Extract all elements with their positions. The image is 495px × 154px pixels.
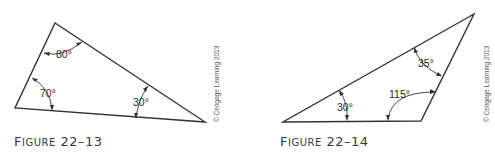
copyright-notice: © Cengage Learning 2013 [483,45,491,122]
triangle-22-14 [283,14,474,122]
arrowhead-icon [345,115,349,121]
figure-22-13: 80° 70° 30° FIGURE 22–13 © Cengage Learn… [14,23,221,149]
copyright-notice: © Cengage Learning 2013 [213,45,221,122]
figure-22-14: 35° 30° 115° FIGURE 22–14 © Cengage Lear… [280,14,491,149]
figure-caption: FIGURE 22–13 [14,134,103,149]
angle-label-70: 70° [40,87,56,99]
arrowhead-icon [134,113,138,119]
figure-caption: FIGURE 22–14 [280,134,369,149]
angle-label-35: 35° [418,57,434,69]
triangle-22-13 [15,23,205,122]
arrowhead-icon [386,115,390,121]
angle-label-30: 30° [133,96,149,108]
arrowhead-icon [414,47,418,53]
angle-label-30b: 30° [337,101,353,113]
figures-canvas: 80° 70° 30° FIGURE 22–13 © Cengage Learn… [0,0,495,154]
arrowhead-icon [339,90,344,96]
angle-label-80: 80° [56,48,72,60]
arrowhead-icon [143,86,148,92]
angle-label-115: 115° [389,88,410,100]
arrowhead-icon [44,52,50,56]
